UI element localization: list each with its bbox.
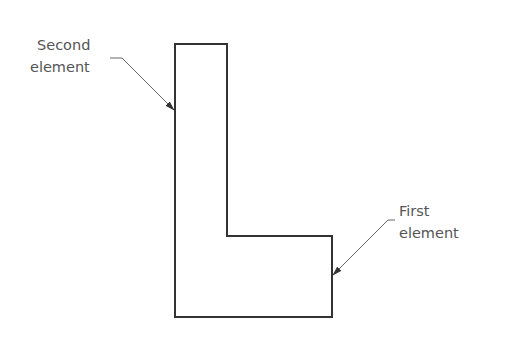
first-element-leader	[333, 220, 395, 275]
diagram-canvas: Second element First element	[0, 0, 514, 350]
second-element-label-line1: Second	[37, 37, 90, 53]
second-element-label-line2: element	[30, 59, 90, 75]
second-element-leader	[110, 58, 174, 110]
l-shape-outline	[175, 44, 332, 317]
first-element-label-line2: element	[399, 225, 459, 241]
first-element-label-line1: First	[399, 203, 430, 219]
